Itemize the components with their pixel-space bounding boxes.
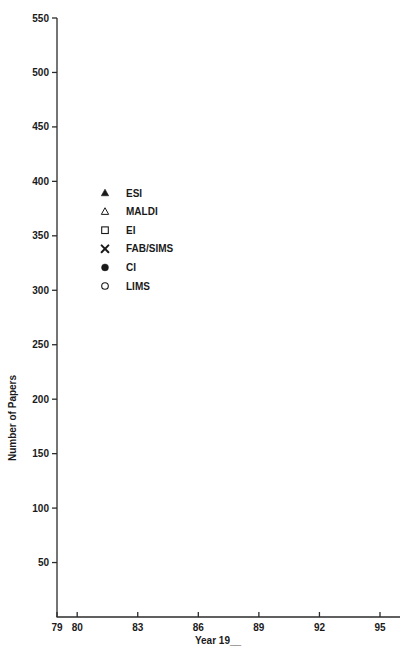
x-tick-label: 95 [374, 622, 386, 633]
legend-item-esi: ESI [101, 188, 142, 199]
legend-item-maldi: MALDI [101, 206, 158, 217]
y-tick-label: 250 [32, 339, 49, 350]
legend-item-lims: LIMS [102, 281, 151, 292]
y-tick-label: 200 [32, 394, 49, 405]
y-tick-label: 100 [32, 503, 49, 514]
y-tick-label: 150 [32, 448, 49, 459]
y-tick-label: 350 [32, 230, 49, 241]
chart-legend: ESIMALDIEIFAB/SIMSCILIMS [101, 188, 173, 292]
legend-marker-open-circle [102, 283, 109, 290]
x-tick-label: 89 [253, 622, 265, 633]
x-tick-label: 80 [72, 622, 84, 633]
y-tick-label: 50 [38, 557, 50, 568]
x-tick-label: 83 [132, 622, 144, 633]
y-tick-label: 500 [32, 67, 49, 78]
y-tick-label: 450 [32, 121, 49, 132]
x-axis: 79808386899295 [51, 612, 400, 633]
legend-marker-cross [102, 245, 109, 252]
legend-label: CI [126, 262, 136, 273]
y-tick-label: 400 [32, 176, 49, 187]
y-axis-title: Number of Papers [7, 374, 18, 461]
legend-label: FAB/SIMS [126, 243, 174, 254]
y-tick-label: 300 [32, 285, 49, 296]
legend-marker-filled-triangle [101, 189, 108, 196]
legend-label: MALDI [126, 206, 158, 217]
legend-marker-open-triangle [101, 208, 108, 215]
y-axis: 50100150200250300350400450500550 [32, 13, 57, 618]
legend-marker-filled-circle [102, 264, 109, 271]
y-tick-label: 550 [32, 13, 49, 24]
legend-label: EI [126, 225, 136, 236]
legend-marker-open-square [102, 227, 109, 234]
chart-canvas: 50100150200250300350400450500550 7980838… [0, 0, 407, 650]
x-axis-title: Year 19__ [195, 635, 242, 646]
legend-item-fab-sims: FAB/SIMS [102, 243, 174, 254]
legend-label: LIMS [126, 281, 150, 292]
x-tick-label: 92 [314, 622, 326, 633]
x-tick-label: 79 [51, 622, 63, 633]
legend-item-ei: EI [102, 225, 136, 236]
legend-item-ci: CI [102, 262, 137, 273]
legend-label: ESI [126, 188, 142, 199]
x-tick-label: 86 [193, 622, 205, 633]
scatter-chart: 50100150200250300350400450500550 7980838… [0, 0, 407, 650]
